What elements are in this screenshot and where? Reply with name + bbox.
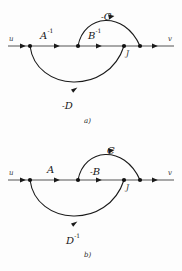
panel-b: u v J A -B C D-1 b)	[0, 132, 182, 271]
panel-b-label-arc-D-sup: -1	[74, 232, 80, 239]
panel-b-end-label: v	[168, 170, 172, 177]
panel-b-start-label: u	[9, 170, 14, 177]
panel-a-lower-arc-arrow	[71, 88, 77, 93]
panel-b-node-label-j: J	[126, 184, 129, 192]
panel-b-label-arc-D: D-1	[66, 231, 80, 247]
panel-a-label-arc-B-sup: -1	[96, 27, 102, 34]
panel-a-label-arc-D: -D	[62, 96, 73, 112]
panel-a-end-label: v	[168, 36, 172, 43]
panel-b-label-arc-A-text: A	[47, 164, 54, 175]
panel-a-label-arc-B-text: B	[88, 30, 96, 41]
panel-a-label-arc-C: -C	[101, 7, 112, 23]
panel-a-label-arc-C-text: C	[104, 11, 112, 22]
panel-a-label-arc-D-text: D	[65, 100, 73, 111]
panel-b-label-arc-D-text: D	[66, 235, 74, 246]
panel-a: u v J A-1 B-1 -C -D a)	[0, 0, 182, 136]
panel-a-label-arc-A: A-1	[40, 26, 53, 42]
figure-root: u v J A-1 B-1 -C -D a)	[0, 0, 182, 271]
panel-a-start-label: u	[9, 36, 14, 43]
panel-b-graphic	[0, 132, 182, 271]
panel-b-label-arc-C-text: C	[107, 145, 115, 156]
panel-a-label-arc-A-sup: -1	[47, 27, 53, 34]
panel-a-graphic	[0, 0, 182, 136]
panel-b-label-arc-B: -B	[90, 162, 100, 178]
panel-b-lower-arc	[30, 180, 124, 216]
panel-b-label-arc-A: A	[47, 160, 54, 176]
panel-b-label-arc-C: C	[107, 141, 115, 157]
panel-b-caption: b)	[84, 252, 91, 259]
panel-b-upper-arc	[78, 154, 140, 180]
panel-a-lower-arc	[30, 46, 124, 82]
panel-b-lower-arc-arrow	[71, 222, 77, 227]
panel-a-label-arc-B: B-1	[88, 26, 101, 42]
panel-a-node-label-j: J	[126, 50, 129, 58]
panel-a-caption: a)	[84, 118, 91, 125]
panel-b-label-arc-B-text: B	[93, 166, 101, 177]
